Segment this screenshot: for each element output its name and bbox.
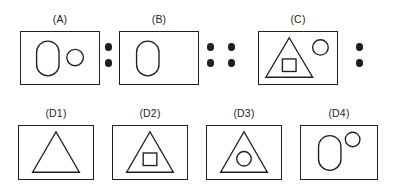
panel-c-shapes <box>259 32 337 84</box>
option-d2-shapes <box>113 126 187 179</box>
panel-a-shapes <box>21 32 99 84</box>
separator-b-c <box>206 42 240 70</box>
option-panel-d3[interactable] <box>206 125 282 180</box>
option-label-d3: (D3) <box>206 107 282 119</box>
panel-c <box>258 31 338 85</box>
panel-b <box>119 31 199 85</box>
option-panel-d2[interactable] <box>112 125 188 180</box>
separator-dot <box>228 59 235 67</box>
separator-dot <box>228 43 235 51</box>
option-d4-shapes <box>301 126 377 179</box>
separator-dot <box>356 43 363 51</box>
rounded-oval-shape <box>319 136 341 171</box>
panel-label-a: (A) <box>20 13 100 25</box>
separator-a-b <box>104 42 114 70</box>
option-label-d1: (D1) <box>18 107 94 119</box>
panel-b-shapes <box>120 32 198 84</box>
separator-dot <box>105 43 112 51</box>
inner-circle-shape <box>237 152 252 166</box>
inner-square-shape <box>143 153 157 166</box>
separator-dot <box>356 59 363 67</box>
rounded-oval-shape <box>37 41 59 76</box>
panel-label-c: (C) <box>258 13 338 25</box>
option-d1-shapes <box>19 126 93 179</box>
option-panel-d4[interactable] <box>300 125 378 180</box>
small-circle-shape <box>313 40 329 55</box>
panel-label-b: (B) <box>119 13 199 25</box>
triangle-shape <box>33 132 80 172</box>
panel-a <box>20 31 100 85</box>
separator-dot <box>105 59 112 67</box>
visual-analogy-puzzle: (A) (B) (C) <box>0 0 393 193</box>
separator-c-answer <box>355 42 365 70</box>
option-label-d4: (D4) <box>300 107 378 119</box>
separator-dot <box>207 43 214 51</box>
small-circle-shape <box>67 49 84 65</box>
triangle-shape <box>127 132 174 172</box>
option-panel-d1[interactable] <box>18 125 94 180</box>
separator-dot <box>207 59 214 67</box>
small-circle-shape <box>345 132 360 146</box>
inner-square-shape <box>282 59 296 72</box>
option-d3-shapes <box>207 126 281 179</box>
option-label-d2: (D2) <box>112 107 188 119</box>
rounded-oval-shape <box>137 41 159 76</box>
